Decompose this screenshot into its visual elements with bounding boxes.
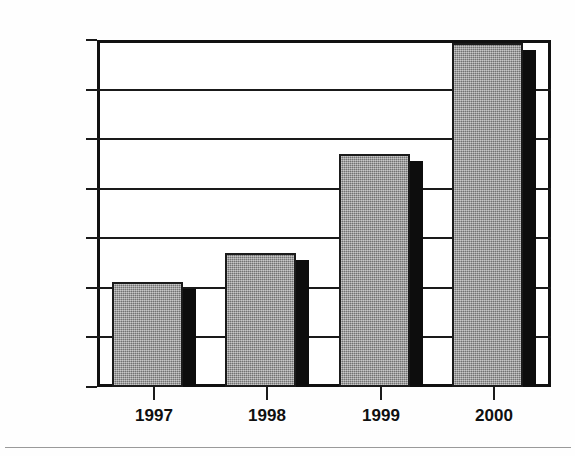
y-axis-tick	[86, 287, 97, 289]
y-axis-tick	[86, 336, 97, 338]
bar-shadow	[181, 289, 196, 387]
x-axis-tick	[493, 387, 495, 400]
x-axis-tick	[153, 387, 155, 400]
bar-group	[112, 40, 196, 387]
x-axis-label: 1998	[212, 406, 322, 426]
bar-series	[97, 40, 551, 387]
y-axis-tick	[86, 386, 97, 388]
y-axis-tick	[86, 89, 97, 91]
bar-shadow	[521, 50, 536, 387]
y-axis-tick	[86, 188, 97, 190]
x-axis-label: 1997	[99, 406, 209, 426]
bar-group	[452, 40, 536, 387]
chart-title-clipped	[0, 0, 575, 13]
x-axis-tick	[380, 387, 382, 400]
bar	[339, 154, 410, 387]
bar-group	[339, 40, 423, 387]
bar	[452, 43, 523, 387]
bar-chart: 9,5009,0008,5008,0007,5007,0006,5006,000…	[97, 40, 551, 387]
bar-group	[225, 40, 309, 387]
x-axis-tick	[266, 387, 268, 400]
footer-divider	[5, 447, 571, 448]
chart-page: 9,5009,0008,5008,0007,5007,0006,5006,000…	[0, 0, 575, 456]
bar	[225, 253, 296, 387]
y-axis-tick	[86, 237, 97, 239]
x-axis-label: 2000	[439, 406, 549, 426]
bar	[112, 282, 183, 387]
bar-shadow	[408, 161, 423, 387]
x-axis-label: 1999	[326, 406, 436, 426]
y-axis-tick	[86, 39, 97, 41]
y-axis-tick	[86, 138, 97, 140]
bar-shadow	[294, 260, 309, 387]
